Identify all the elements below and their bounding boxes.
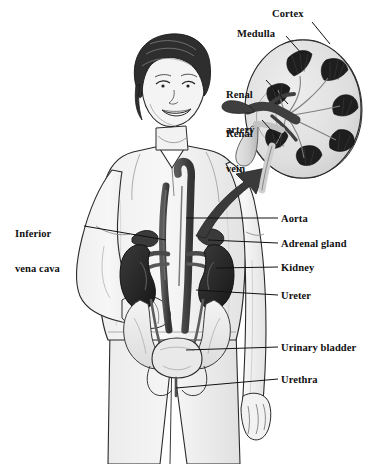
label-cortex: Cortex bbox=[272, 8, 304, 20]
label-renal-artery-line1: Renal bbox=[226, 89, 255, 101]
label-aorta: Aorta bbox=[281, 213, 308, 225]
label-inferior-vena-cava: Inferior vena cava bbox=[15, 205, 60, 286]
anatomy-figure: Cortex Medulla Renal artery Renal vein I… bbox=[0, 0, 377, 464]
urinary-bladder bbox=[152, 338, 202, 378]
label-adrenal-gland: Adrenal gland bbox=[281, 238, 347, 250]
head bbox=[134, 34, 210, 127]
label-ureter: Ureter bbox=[281, 290, 311, 302]
label-inferior-vena-cava-line2: vena cava bbox=[15, 263, 60, 275]
label-renal-vein-line2: vein bbox=[226, 163, 253, 175]
label-renal-vein: Renal vein bbox=[226, 105, 253, 186]
label-renal-vein-line1: Renal bbox=[226, 128, 253, 140]
label-medulla: Medulla bbox=[237, 28, 275, 40]
label-urinary-bladder: Urinary bladder bbox=[281, 342, 356, 354]
label-urethra: Urethra bbox=[281, 374, 318, 386]
label-inferior-vena-cava-line1: Inferior bbox=[15, 228, 60, 240]
label-kidney: Kidney bbox=[281, 262, 314, 274]
